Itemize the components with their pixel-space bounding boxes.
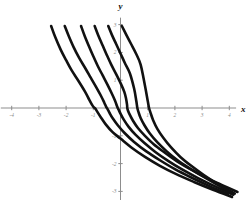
y-tick-label: -3 [112,188,117,194]
y-axis-label: y [118,1,124,11]
x-tick-label: 2 [174,112,177,118]
y-tick-label: 3 [113,22,117,28]
x-tick-label: 1 [146,112,149,118]
y-tick-label: 2 [114,49,117,55]
y-tick-label: -2 [112,161,117,167]
x-tick-label: 4 [228,112,231,118]
plot-canvas: -4-3-2-11234 321-1-2-3 x y [0,0,251,200]
x-tick-label: -4 [9,112,14,118]
y-tick-label: 1 [114,77,117,83]
x-tick-label: -1 [91,112,96,118]
x-tick-label: 3 [200,112,204,118]
x-axis-label: x [240,104,246,114]
plot-figure: -4-3-2-11234 321-1-2-3 x y [0,0,251,200]
x-tick-label: -3 [37,112,42,118]
solution-curve [65,26,228,194]
solution-curve [51,26,232,197]
curve-family [51,26,237,197]
x-tick-label: -2 [64,112,69,118]
